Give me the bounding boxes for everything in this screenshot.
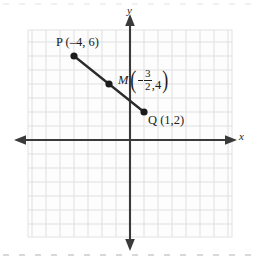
coordinate-plane-figure: P (–4, 6) Q (1,2) M ( 3 2 ,4 ) x y: [0, 0, 254, 259]
fraction-denominator: 2: [144, 81, 152, 92]
point-q-label: Q (1,2): [148, 114, 184, 127]
right-paren: ): [162, 70, 168, 91]
point-m-label-y: ,4: [152, 79, 161, 93]
y-axis-label: y: [127, 5, 132, 16]
fraction-three-halves: 3 2: [144, 68, 152, 93]
point-m-label: M ( 3 2 ,4 ): [118, 68, 169, 93]
point-p: [70, 52, 77, 59]
coordinate-plane-svg: [0, 0, 254, 259]
point-m: [105, 80, 112, 87]
point-p-label: P (–4, 6): [56, 36, 99, 49]
point-p-label-text: P (–4, 6): [56, 35, 99, 49]
fraction-numerator: 3: [144, 68, 152, 79]
minus-sign-icon: [138, 80, 143, 81]
point-q: [140, 108, 147, 115]
left-paren: (: [131, 70, 137, 91]
point-q-label-text: Q (1,2): [148, 113, 184, 127]
x-axis-label: x: [239, 131, 244, 142]
point-m-label-name: M: [118, 74, 128, 87]
fraction-group: 3 2 ,4: [138, 68, 161, 93]
